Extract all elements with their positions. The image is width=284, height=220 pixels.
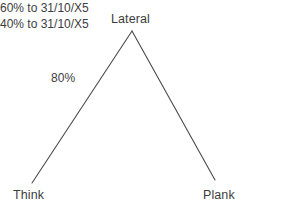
edge-label-left-ownership: 80% <box>51 70 75 86</box>
edge-line-lateral-to-think <box>32 31 132 183</box>
edge-line-lateral-to-plank <box>132 31 215 180</box>
node-label-lateral: Lateral <box>111 12 150 26</box>
node-label-think: Think <box>13 188 44 202</box>
group-structure-diagram: Lateral Think Plank 80% 60% to 31/10/X5 … <box>0 0 284 220</box>
node-label-plank: Plank <box>203 188 235 202</box>
diagram-connector-lines <box>0 0 284 220</box>
